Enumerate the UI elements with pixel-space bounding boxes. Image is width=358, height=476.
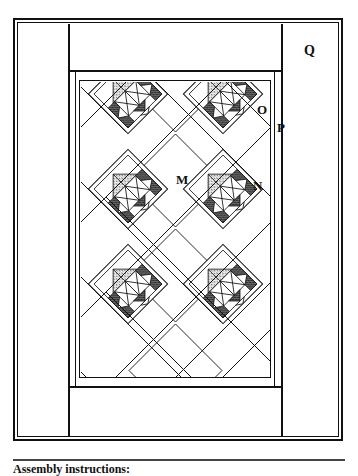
right-border-divider: [281, 24, 283, 436]
caption-divider: [13, 459, 345, 461]
label-p: P: [277, 121, 285, 134]
label-m: M: [176, 173, 188, 186]
assembly-instructions-heading: Assembly instructions:: [13, 463, 343, 476]
quilt-blocks-svg: [81, 82, 270, 377]
label-o: O: [257, 103, 267, 116]
left-border-divider: [68, 24, 70, 436]
quilt-diagram: M N O P Q: [13, 18, 345, 453]
label-q: Q: [304, 44, 315, 58]
quilt-center-field: [81, 82, 270, 377]
label-n: N: [253, 179, 262, 192]
